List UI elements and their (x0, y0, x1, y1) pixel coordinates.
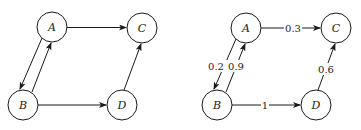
node-c: C (321, 13, 351, 43)
node-a: A (37, 12, 67, 42)
node-label: B (18, 99, 27, 112)
diagram-canvas: A B C D 0.3 0.2 0.9 1 (0, 0, 361, 130)
node-label: A (241, 22, 250, 35)
node-d: D (107, 90, 137, 120)
node-label: C (332, 22, 341, 35)
edge-d-to-c (124, 44, 141, 90)
node-a: A (231, 13, 261, 43)
edge-a-to-b (20, 38, 42, 89)
graph-weighted: 0.3 0.2 0.9 1 0.6 A B C D (202, 13, 351, 120)
node-label: D (311, 99, 321, 112)
node-b: B (8, 90, 38, 120)
node-c: C (127, 13, 157, 43)
node-label: A (47, 21, 56, 34)
edge-weight-a-b: 0.2 (208, 61, 224, 72)
node-label: B (212, 99, 221, 112)
edge-b-to-a (32, 43, 51, 92)
node-b: B (202, 90, 232, 120)
edge-weight-d-c: 0.6 (318, 64, 334, 75)
edge-weight-b-d: 1 (262, 100, 268, 111)
edge-weight-b-a: 0.9 (228, 61, 244, 72)
node-d: D (301, 90, 331, 120)
node-label: C (138, 22, 147, 35)
edge-weight-a-c: 0.3 (285, 23, 301, 34)
node-label: D (117, 99, 127, 112)
graph-unweighted: A B C D (8, 12, 157, 120)
